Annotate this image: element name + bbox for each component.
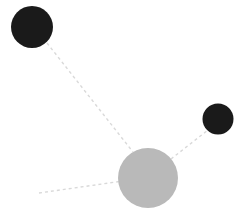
atom-center: [118, 148, 178, 208]
atom-top-left: [11, 6, 53, 48]
atom-right: [203, 104, 234, 135]
diagram-canvas: [0, 0, 246, 218]
scene-svg: [0, 0, 246, 218]
